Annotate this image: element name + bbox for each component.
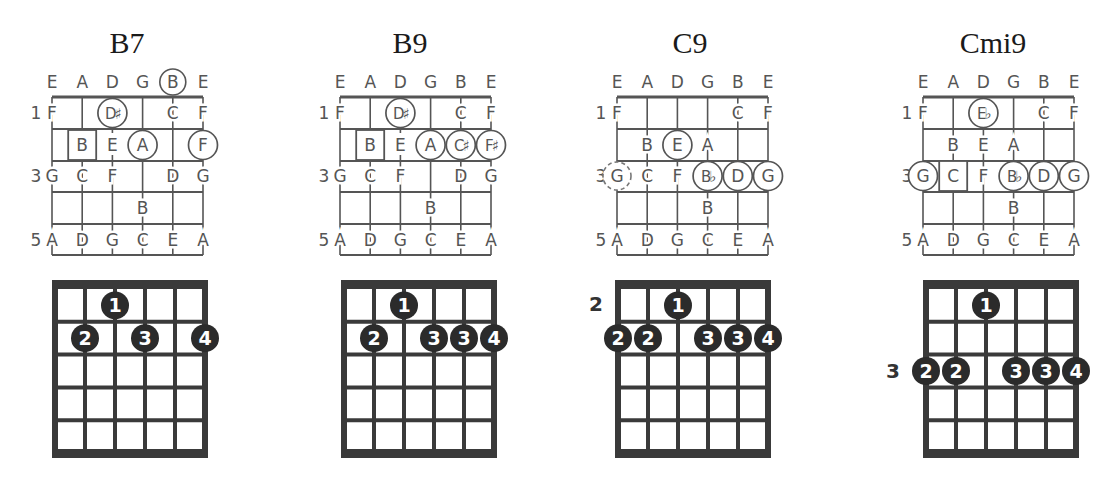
fret-note: C <box>702 230 714 250</box>
string-name: E <box>47 72 58 92</box>
top-bar <box>341 280 497 289</box>
fingering-grid: 2122334 <box>589 280 782 458</box>
string-name: D <box>394 72 407 92</box>
position-number: 3 <box>886 359 900 383</box>
chord-tone-label: G <box>1067 166 1080 186</box>
fret-number: 1 <box>902 103 913 123</box>
finger-number: 4 <box>1069 360 1082 382</box>
chord-diagrams: B7EADGBE135FCFGCFDGBADGCEAD♯BEAF1234B9EA… <box>0 0 1118 492</box>
finger-number: 1 <box>108 294 121 316</box>
fret-note: G <box>484 166 497 186</box>
finger-number: 2 <box>919 360 932 382</box>
string-name: E <box>918 72 929 92</box>
chord-tone-label: D <box>731 166 744 186</box>
chord-tone-label: B <box>364 135 376 155</box>
note-diagram: EADGBE135FCFBEAFBADGCEAE♭GCB♭DG <box>902 72 1089 255</box>
fret-number: 3 <box>319 166 330 186</box>
fret-note: B <box>702 198 714 218</box>
chord-tone-label: B <box>76 135 88 155</box>
fret-note: F <box>673 166 683 186</box>
bottom-bar <box>615 449 771 458</box>
fret-note: F <box>396 166 406 186</box>
fret-note: C <box>455 103 467 123</box>
chord-b7: B7EADGBE135FCFGCFDGBADGCEAD♯BEAF1234 <box>31 26 219 458</box>
fret-note: G <box>977 230 990 250</box>
fret-note: B <box>425 198 437 218</box>
note-diagram: EADGBE135FCFGCFDGBADGCEAD♯BEAF <box>31 69 218 255</box>
string-name: D <box>106 72 119 92</box>
finger-number: 2 <box>611 327 624 349</box>
chord-tone-label: F <box>198 135 208 155</box>
chord-c9: C9EADGBE135FCFBACFBADGCEAEGB♭DG2122334 <box>589 26 782 458</box>
chord-tone-label: D <box>1037 166 1050 186</box>
chord-b9: B9EADGBE135FCFGCFDGBADGCEAD♯BEAC♯F♯12334 <box>319 26 508 458</box>
fret-note: B <box>947 135 959 155</box>
fret-note: C <box>137 230 149 250</box>
note-diagram: EADGBE135FCFBACFBADGCEAEGB♭DG <box>596 72 783 255</box>
chord-tone-label: A <box>425 135 437 155</box>
chord-tone-label: E♭ <box>977 105 990 123</box>
finger-number: 3 <box>731 327 744 349</box>
fret-number: 5 <box>902 230 913 250</box>
fret-note: E <box>978 135 989 155</box>
finger-number: 4 <box>487 327 500 349</box>
string-name: E <box>198 72 209 92</box>
string-name: B <box>167 72 179 92</box>
string-name: D <box>977 72 990 92</box>
chord-tone-label: F♯ <box>485 137 498 155</box>
fret-number: 5 <box>31 230 42 250</box>
fingering-grid: 3122334 <box>886 280 1090 458</box>
fret-note: F <box>335 103 345 123</box>
chord-tone-label: B♭ <box>701 168 715 186</box>
fret-note: A <box>1008 135 1020 155</box>
chord-cmi9: Cmi9EADGBE135FCFBEAFBADGCEAE♭GCB♭DG31223… <box>886 26 1090 458</box>
string-name: A <box>947 72 959 92</box>
string-name: A <box>641 72 653 92</box>
grid-frame <box>55 283 205 455</box>
fret-note: C <box>1038 103 1050 123</box>
finger-number: 3 <box>1009 360 1022 382</box>
finger-number: 3 <box>457 327 470 349</box>
string-name: G <box>701 72 714 92</box>
fret-note: A <box>917 230 929 250</box>
fret-number: 1 <box>596 103 607 123</box>
chord-tone-label: G <box>916 166 929 186</box>
string-name: G <box>1007 72 1020 92</box>
string-name: E <box>486 72 497 92</box>
top-bar <box>615 280 771 289</box>
chord-tone-label: E <box>672 135 683 155</box>
fret-note: C <box>76 166 88 186</box>
bottom-bar <box>341 449 497 458</box>
fret-note: D <box>641 230 654 250</box>
fret-number: 5 <box>596 230 607 250</box>
string-name: B <box>732 72 744 92</box>
fret-note: C <box>1008 230 1020 250</box>
chord-tone-label: D♯ <box>393 105 409 123</box>
fret-note: B <box>1008 198 1020 218</box>
string-name: G <box>424 72 437 92</box>
chord-tone-label: A <box>137 135 149 155</box>
fret-note: A <box>334 230 346 250</box>
finger-number: 3 <box>427 327 440 349</box>
fret-note: E <box>1038 230 1049 250</box>
fret-note: E <box>167 230 178 250</box>
chord-tone-label: G <box>761 166 774 186</box>
finger-number: 3 <box>701 327 714 349</box>
fret-note: E <box>732 230 743 250</box>
fret-note: C <box>167 103 179 123</box>
fret-number: 1 <box>319 103 330 123</box>
fret-note: G <box>333 166 346 186</box>
chord-title: B7 <box>109 26 144 59</box>
note-diagram: EADGBE135FCFGCFDGBADGCEAD♯BEAC♯F♯ <box>319 72 506 255</box>
top-bar <box>923 280 1079 289</box>
finger-number: 1 <box>671 294 684 316</box>
finger-number: 2 <box>949 360 962 382</box>
grid-frame <box>618 283 768 455</box>
string-name: A <box>76 72 88 92</box>
finger-number: 1 <box>979 294 992 316</box>
fret-note: F <box>918 103 928 123</box>
fret-note: C <box>364 166 376 186</box>
string-name: E <box>763 72 774 92</box>
fret-note: G <box>394 230 407 250</box>
bottom-bar <box>52 449 208 458</box>
